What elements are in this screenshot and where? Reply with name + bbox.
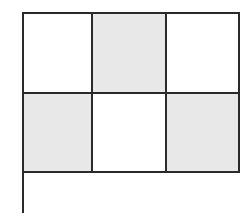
- cell-r1-c3-unshaded: [166, 13, 238, 93]
- grid-bottom-border: [22, 171, 240, 173]
- grid-left-border-stem: [22, 12, 24, 213]
- cell-r1-c1-unshaded: [23, 13, 92, 93]
- cell-r2-c3-shaded: [166, 93, 238, 172]
- cell-r2-c1-shaded: [23, 93, 92, 172]
- grid-top-border: [22, 12, 240, 14]
- grid-middle-line: [22, 92, 240, 94]
- checkerboard-grid-diagram: [0, 0, 251, 221]
- cell-r1-c2-shaded: [92, 13, 166, 93]
- grid-right-border: [238, 12, 240, 173]
- cell-r2-c2-unshaded: [92, 93, 166, 172]
- grid-divider-1: [91, 12, 93, 173]
- grid-divider-2: [165, 12, 167, 173]
